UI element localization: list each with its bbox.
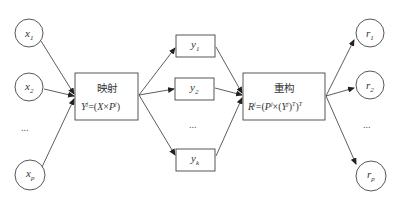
inputs-ellipsis: ... [21, 122, 29, 133]
edge-mapping-y1 [139, 48, 175, 95]
edge-x2-mapping [44, 89, 74, 96]
output-node-rp: rp [356, 161, 386, 191]
edge-xp-mapping [42, 99, 74, 167]
input-node-xp: xp [15, 160, 45, 190]
edge-reconstruct-r1 [326, 40, 354, 96]
latent-box-y2: y2 [175, 78, 214, 100]
latents-ellipsis: ... [189, 119, 197, 130]
latent-box-yk: yk [176, 149, 215, 171]
outputs-ellipsis: ... [363, 119, 371, 130]
latent-box-y1: y1 [176, 35, 215, 57]
input-node-x2: x2 [15, 73, 43, 101]
output-node-r2: r2 [356, 71, 384, 99]
edges-mapping-to-latents [139, 48, 175, 155]
edges-latents-to-reconstruct [215, 47, 242, 156]
reconstruct-box: 重构 Rj=(Pj×(Yj)T)T [243, 73, 325, 120]
edges-input-to-mapping [41, 41, 74, 167]
mapping-title: 映射 [97, 82, 118, 94]
input-node-x1: x1 [15, 19, 43, 47]
edge-yk-reconstruct [216, 98, 242, 156]
edges-reconstruct-to-outputs [326, 40, 356, 164]
mapping-reconstruction-diagram: x1 x2 ... xp 映射 Yj=(X×Pj) y1 y2 ... yk 重… [0, 0, 397, 202]
edge-x1-mapping [41, 41, 74, 94]
edge-y1-reconstruct [216, 47, 242, 93]
reconstruct-title: 重构 [274, 82, 294, 94]
mapping-box: 映射 Yj=(X×Pj) [75, 73, 138, 120]
edge-mapping-yk [139, 95, 175, 155]
edge-y2-reconstruct [215, 88, 242, 95]
output-node-r1: r1 [356, 19, 384, 47]
edge-reconstruct-rp [326, 96, 356, 164]
edge-mapping-y2 [139, 89, 174, 95]
edge-reconstruct-r2 [326, 88, 354, 96]
